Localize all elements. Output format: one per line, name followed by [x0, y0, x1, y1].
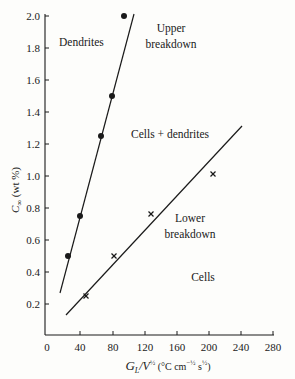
axes — [45, 14, 274, 335]
x-axis-title-close: ) — [207, 361, 210, 373]
data-point — [98, 133, 104, 139]
region-label-upper-breakdown-line1: Upper — [157, 22, 186, 35]
x-tick-labels: 0 40 80 120 160 200 240 280 — [44, 341, 282, 353]
x-ticks — [80, 331, 273, 335]
y-axis-title: C∞ (wt %) — [9, 167, 24, 213]
x-tick-label: 240 — [233, 341, 250, 353]
y-tick-label: 0.2 — [26, 298, 40, 310]
x-axis-title: GL/V½ (°C cm−½ s½) — [125, 358, 210, 375]
data-point — [109, 93, 115, 99]
data-point — [77, 213, 83, 219]
y-tick-label: 1.6 — [26, 74, 40, 86]
region-label-cells-dendrites: Cells + dendrites — [131, 128, 210, 140]
region-label-lower-breakdown-line1: Lower — [175, 212, 205, 224]
x-tick-label: 280 — [265, 341, 282, 353]
y-tick-label: 0.4 — [26, 266, 40, 278]
x-tick-label: 120 — [137, 341, 154, 353]
upper-breakdown-line — [60, 14, 134, 293]
svg-text:C∞ (wt %): C∞ (wt %) — [9, 167, 24, 213]
data-point — [65, 253, 71, 259]
y-tick-label: 2.0 — [26, 10, 40, 22]
lower-breakdown-line — [66, 126, 242, 315]
x-axis-title-unit-exp: −½ — [186, 359, 195, 367]
x-axis-title-unit: (°C cm — [155, 361, 186, 373]
data-point — [121, 13, 127, 19]
y-tick-label: 0.6 — [26, 234, 40, 246]
region-label-cells: Cells — [191, 271, 215, 283]
y-ticks — [45, 16, 49, 304]
x-tick-label: 200 — [201, 341, 218, 353]
y-tick-label: 1.8 — [26, 42, 40, 54]
y-tick-label: 1.2 — [26, 138, 40, 150]
y-tick-label: 1.4 — [26, 106, 40, 118]
region-label-upper-breakdown-line2: breakdown — [145, 38, 196, 50]
chart: 0.2 0.4 0.6 0.8 1.0 1.2 1.4 1.6 1.8 2.0 … — [0, 0, 295, 379]
x-tick-label: 160 — [169, 341, 186, 353]
y-tick-labels: 0.2 0.4 0.6 0.8 1.0 1.2 1.4 1.6 1.8 2.0 — [26, 10, 40, 310]
x-tick-label: 40 — [75, 341, 87, 353]
x-tick-label: 80 — [108, 341, 120, 353]
y-tick-label: 0.8 — [26, 202, 40, 214]
region-label-lower-breakdown-line2: breakdown — [164, 228, 215, 240]
upper-breakdown-points — [65, 13, 127, 259]
cross-marker — [149, 212, 154, 217]
y-tick-label: 1.0 — [26, 170, 40, 182]
x-tick-label: 0 — [44, 341, 50, 353]
cross-marker — [112, 254, 117, 259]
cross-marker — [211, 172, 216, 177]
y-axis-title-unit: (wt %) — [9, 167, 22, 200]
region-label-dendrites: Dendrites — [59, 36, 104, 48]
